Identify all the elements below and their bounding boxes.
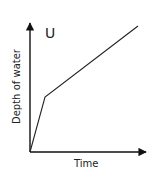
x-axis-label: Time <box>73 158 98 169</box>
y-axis-label: Depth of water <box>11 48 22 124</box>
line-chart: U Time Depth of water <box>0 0 152 174</box>
chart-title: U <box>45 25 55 41</box>
depth-line <box>30 26 138 152</box>
